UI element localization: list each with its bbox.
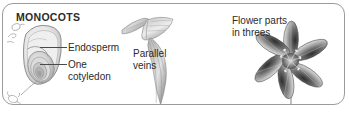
label-parallel-veins: Parallel veins [133,48,166,71]
label-flower-parts-line1: Flower parts [232,15,287,27]
label-one-cotyledon-line1: One [68,59,111,71]
label-flower-parts: Flower parts in threes [232,15,287,38]
leader-line-endosperm [40,47,67,48]
germinating-seed-sketches [7,23,25,105]
label-one-cotyledon: One cotyledon [68,59,111,82]
page-title: MONOCOTS [16,11,80,23]
monocots-panel: MONOCOTS [2,3,345,105]
label-one-cotyledon-line2: cotyledon [68,71,111,83]
label-flower-parts-line2: in threes [232,27,287,39]
leader-line-cotyledon [40,64,67,65]
monocot-seed-cross-section [21,25,61,95]
label-endosperm: Endosperm [68,42,119,54]
label-parallel-veins-line2: veins [133,60,166,72]
label-parallel-veins-line1: Parallel [133,48,166,60]
